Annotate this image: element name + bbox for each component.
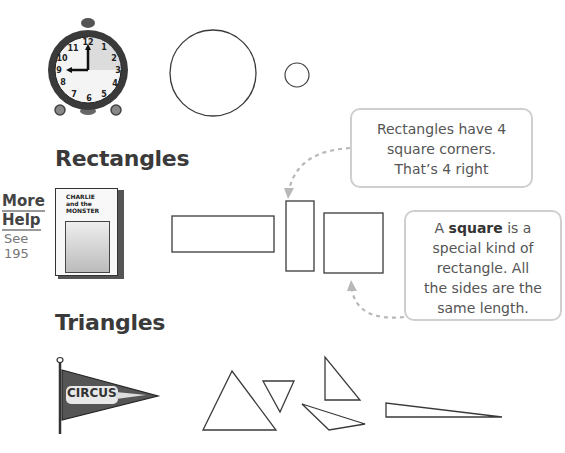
more-help-line2: Help (2, 212, 41, 231)
callout-text: A (435, 220, 449, 236)
more-help-line1: More (2, 193, 45, 212)
rectangles-heading: Rectangles (55, 146, 189, 171)
dashed-arrow-to-rectangle (289, 148, 350, 190)
see-label: See (4, 231, 29, 246)
inverted-triangle (263, 381, 294, 412)
page-number: 195 (4, 246, 29, 261)
obtuse-triangle (302, 404, 365, 430)
pennant-illustration: CIRCUS (54, 356, 166, 436)
equilateral-triangle (203, 371, 276, 430)
callout-text-line: square corners. (352, 139, 531, 159)
book-title-line3: MONSTER (66, 207, 117, 214)
callout-text-line: rectangle. All (406, 258, 560, 278)
tall-rectangle (286, 201, 314, 271)
callout-text-line: special kind of (406, 238, 560, 258)
more-help-link[interactable]: More Help (2, 193, 45, 231)
right-triangle (325, 357, 360, 400)
callout-text-line: Rectangles have 4 (352, 119, 531, 139)
callout-text-line: the sides are the (406, 278, 560, 298)
square-shape (324, 213, 383, 273)
thin-right-triangle (386, 403, 502, 417)
large-circle (170, 30, 256, 116)
book-title-line2: and the (66, 200, 117, 207)
page-reference: See 195 (4, 231, 29, 261)
triangles-heading: Triangles (55, 310, 165, 335)
wide-rectangle (172, 216, 274, 252)
callout-text-line: same length. (406, 298, 560, 318)
small-circle (285, 63, 309, 87)
arrowhead-icon (347, 280, 357, 291)
callout-square: A square is a special kind of rectangle.… (404, 210, 562, 321)
callout-text-line: That’s 4 right (352, 159, 531, 179)
dashed-arrow-to-square (352, 290, 404, 318)
callout-rectangles: Rectangles have 4 square corners. That’s… (350, 108, 533, 188)
callout-text-line: A square is a (406, 218, 560, 238)
callout-text: is a (503, 220, 532, 236)
arrowhead-icon (284, 188, 294, 199)
book-title-line1: CHARLIE (66, 193, 117, 200)
pennant-text: CIRCUS (67, 386, 117, 400)
callout-bold-term: square (449, 220, 503, 236)
book-illustration: CHARLIE and the MONSTER (55, 188, 125, 280)
monster-picture (65, 221, 110, 273)
